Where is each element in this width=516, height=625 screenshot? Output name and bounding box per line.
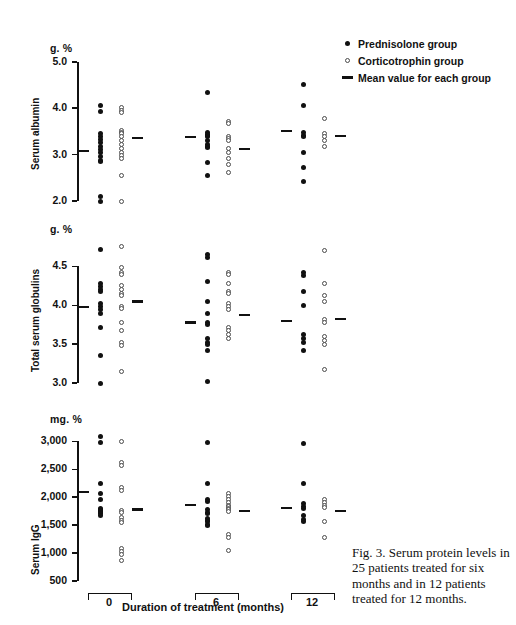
figure-caption: Fig. 3. Serum protein levels in 25 patie… [352, 545, 512, 607]
y-tick-label: 2,500 [19, 462, 67, 474]
y-tick [72, 496, 77, 498]
data-point-prednisolone [301, 441, 306, 446]
data-point-prednisolone [98, 481, 103, 486]
mean-marker [132, 508, 143, 510]
figure-serum-protein-levels: Prednisolone group Corticotrophin group … [0, 0, 516, 625]
mean-marker [78, 491, 89, 493]
mean-marker [239, 510, 250, 512]
data-point-prednisolone [98, 513, 103, 518]
y-axis-line [77, 441, 79, 581]
data-point-corticotrophin [119, 439, 124, 444]
y-tick-label: 3,000 [19, 434, 67, 446]
data-point-corticotrophin [322, 505, 327, 510]
data-point-corticotrophin [322, 535, 327, 540]
data-point-corticotrophin [322, 519, 327, 524]
data-point-prednisolone [205, 523, 210, 528]
data-point-corticotrophin [119, 463, 124, 468]
data-point-prednisolone [98, 491, 103, 496]
data-point-prednisolone [301, 506, 306, 511]
data-point-corticotrophin [119, 520, 124, 525]
data-point-prednisolone [98, 434, 103, 439]
mean-marker [185, 504, 196, 506]
unit-label: mg. % [50, 413, 82, 425]
data-point-corticotrophin [119, 552, 124, 557]
data-point-prednisolone [205, 440, 210, 445]
mean-marker [281, 507, 292, 509]
data-point-prednisolone [301, 519, 306, 524]
x-axis-title: Duration of treatment (months) [122, 601, 284, 613]
y-tick [72, 469, 77, 471]
data-point-corticotrophin [226, 509, 231, 514]
y-tick [72, 580, 77, 582]
data-point-corticotrophin [226, 535, 231, 540]
x-axis-bracket-label-12: 12 [291, 596, 333, 608]
mean-marker [335, 510, 346, 512]
y-tick-label: 2,000 [19, 490, 67, 502]
data-point-corticotrophin [119, 558, 124, 563]
data-point-prednisolone [301, 481, 306, 486]
chart-panel-3: mg. %Serum IgG3,0002,5002,0001,5001,0005… [0, 0, 516, 625]
y-tick [72, 524, 77, 526]
data-point-prednisolone [205, 499, 210, 504]
data-point-corticotrophin [119, 488, 124, 493]
data-point-prednisolone [98, 497, 103, 502]
y-tick [72, 552, 77, 554]
data-point-prednisolone [205, 481, 210, 486]
y-tick-label: 1,500 [19, 518, 67, 530]
y-tick-label: 1,000 [19, 546, 67, 558]
data-point-prednisolone [98, 440, 103, 445]
y-tick-label: 500 [19, 574, 67, 586]
y-tick [72, 441, 77, 443]
data-point-corticotrophin [226, 548, 231, 553]
